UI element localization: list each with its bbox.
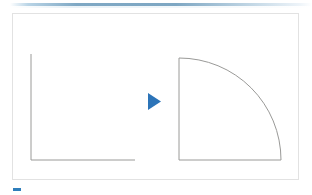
- arrow-label: [0, 0, 1, 1]
- right-shape-label: [0, 0, 1, 1]
- top-divider-rule-shadow: [10, 6, 312, 8]
- bottom-left-marker: [13, 188, 21, 191]
- slide-canvas: [0, 0, 312, 195]
- left-shape-label: [0, 0, 1, 1]
- content-frame: [12, 13, 299, 180]
- slide-title: [0, 0, 1, 1]
